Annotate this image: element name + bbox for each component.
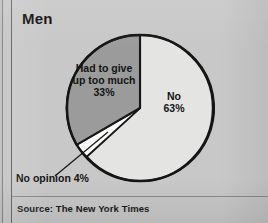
slice-label-no-line2: 63% bbox=[152, 103, 196, 115]
pie-chart bbox=[0, 0, 268, 223]
slice-label-no-line1: No bbox=[152, 91, 196, 103]
slice-label-no: No 63% bbox=[152, 91, 196, 115]
slice-label-give-up-line1: Had to give bbox=[58, 63, 150, 75]
slice-label-give-up-line2: up too much bbox=[58, 75, 150, 87]
slice-label-no-opinion: No opinion 4% bbox=[16, 172, 89, 184]
slice-label-give-up-line3: 33% bbox=[58, 87, 150, 99]
source-caption: Source: The New York Times bbox=[17, 203, 149, 214]
chart-panel: Men Had to give up too much 33% No 63% N… bbox=[0, 0, 268, 223]
slice-label-give-up: Had to give up too much 33% bbox=[58, 63, 150, 98]
